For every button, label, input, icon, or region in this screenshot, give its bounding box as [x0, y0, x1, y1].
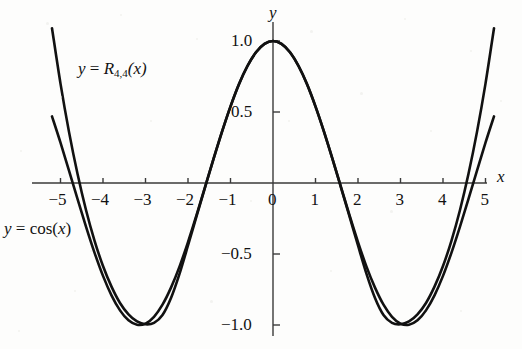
y-axis-name: y [269, 4, 277, 21]
rational-label-eq: = [86, 59, 104, 78]
x-tick-label: −4 [91, 191, 109, 208]
cos-label-eq: = [12, 219, 30, 238]
cosine-curve-label: y = cos(x) [4, 220, 71, 237]
rational-label-R: R [104, 59, 114, 78]
rational-label-subscript: 4,4 [114, 67, 128, 79]
plot-canvas [0, 0, 522, 349]
rational-curve-label: y = R4,4(x) [78, 60, 147, 79]
x-tick-label: 1 [311, 191, 320, 208]
x-tick-label: 5 [481, 191, 490, 208]
cos-label-y: y [4, 219, 12, 238]
x-tick-label: 0 [268, 191, 277, 208]
x-tick-label: 3 [396, 191, 405, 208]
x-tick-label: −5 [49, 191, 67, 208]
figure-panel: −5−4−3−2−10123451.00.5−0.5−1.0 y x y = R… [0, 0, 522, 349]
x-tick-label: 4 [438, 191, 447, 208]
x-axis-name: x [497, 168, 505, 185]
cos-label-close: ) [66, 219, 72, 238]
x-tick-label: −1 [219, 191, 237, 208]
cos-label-var: x [58, 219, 66, 238]
x-tick-label: −3 [134, 191, 152, 208]
y-tick-label: 1.0 [231, 32, 252, 49]
rational-label-y: y [78, 59, 86, 78]
x-tick-label: 2 [353, 191, 362, 208]
y-tick-label: −1.0 [221, 316, 252, 333]
y-tick-label: −0.5 [221, 245, 252, 262]
rational-label-arg: (x) [128, 59, 147, 78]
x-tick-label: −2 [176, 191, 194, 208]
y-tick-label: 0.5 [231, 103, 252, 120]
cos-label-fn: cos( [30, 219, 58, 238]
